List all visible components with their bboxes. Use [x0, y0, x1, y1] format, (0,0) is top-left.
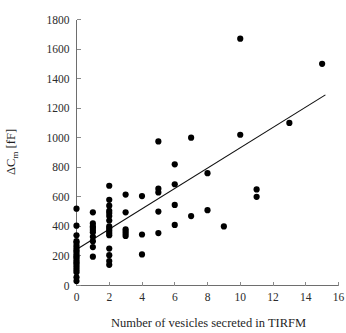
y-tick-label: 800 [52, 161, 70, 173]
data-point [221, 223, 227, 229]
data-point [106, 223, 112, 229]
data-point [155, 138, 161, 144]
y-tick-label: 1200 [47, 102, 70, 114]
data-point [139, 251, 145, 257]
data-point [106, 197, 112, 203]
data-point [155, 209, 161, 215]
data-point [204, 170, 210, 176]
x-tick-label: 14 [300, 291, 312, 303]
data-point [172, 222, 178, 228]
data-point [139, 193, 145, 199]
data-point [155, 186, 161, 192]
data-point [90, 209, 96, 215]
data-point [172, 181, 178, 187]
data-point [90, 254, 96, 260]
data-point [123, 192, 129, 198]
data-point [286, 120, 292, 126]
data-point [188, 213, 194, 219]
data-point [254, 186, 260, 192]
x-tick-label: 4 [139, 291, 145, 303]
data-point [106, 203, 112, 209]
y-tick-label: 200 [52, 250, 70, 262]
x-tick-label: 0 [74, 291, 80, 303]
data-point [73, 206, 79, 212]
y-tick-label: 600 [52, 191, 70, 203]
data-point [106, 183, 112, 189]
data-point [237, 132, 243, 138]
data-point [172, 202, 178, 208]
y-tick-label: 1000 [47, 132, 70, 144]
data-point [106, 258, 112, 264]
x-tick-label: 16 [333, 291, 345, 303]
x-tick-label: 6 [172, 291, 178, 303]
y-tick-label: 400 [52, 220, 70, 232]
data-point [188, 135, 194, 141]
y-tick-label: 1400 [47, 73, 70, 85]
x-tick-label: 12 [267, 291, 279, 303]
x-tick-label: 2 [106, 291, 112, 303]
x-axis-title: Number of vesicles secreted in TIRFM [111, 316, 306, 330]
data-point [90, 244, 96, 250]
data-point [73, 223, 79, 229]
data-point [123, 209, 129, 215]
y-tick-label: 1600 [47, 43, 70, 55]
y-tick-label: 1800 [47, 14, 70, 26]
data-point [73, 238, 79, 244]
data-point [204, 207, 210, 213]
data-point [172, 161, 178, 167]
data-point [90, 220, 96, 226]
data-point [155, 230, 161, 236]
data-point [123, 226, 129, 232]
x-tick-label: 10 [235, 291, 247, 303]
data-point [106, 245, 112, 251]
y-tick-label: 0 [64, 280, 70, 292]
regression-trend-line [77, 95, 326, 250]
y-axis-title: ΔCm [fF] [4, 129, 20, 175]
data-point [319, 61, 325, 67]
data-point [237, 36, 243, 42]
data-point-group [73, 36, 325, 285]
data-point [73, 232, 79, 238]
chart-canvas: 0200400600800100012001400160018000246810… [0, 0, 346, 333]
data-point [106, 252, 112, 258]
x-tick-label: 8 [205, 291, 211, 303]
data-point [254, 194, 260, 200]
scatter-plot-figure: 0200400600800100012001400160018000246810… [0, 0, 346, 333]
data-point [139, 231, 145, 237]
